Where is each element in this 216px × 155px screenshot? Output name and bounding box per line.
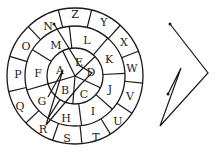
sector-divider [80,126,82,144]
sector-divider [101,119,110,134]
letter-f: F [34,67,42,80]
sector-divider [26,111,39,123]
letter-h: H [61,112,71,125]
letter-m: M [50,39,61,52]
sector-divider [87,10,91,27]
letter-s: S [63,132,71,145]
letter-x: X [120,36,128,49]
sector-divider [79,104,82,126]
letter-y: Y [99,16,108,29]
zigzag-end-dot [167,93,170,96]
letter-n: N [43,20,53,33]
sector-divider [58,10,62,27]
sector-divider [125,81,143,83]
sector-divider [28,27,40,40]
sector-divider [27,84,48,90]
letter-p: P [14,68,22,81]
sector-divider [108,25,120,38]
extracted-zigzag-shape [160,23,208,127]
letter-t: T [92,131,100,144]
letter-i: I [91,105,95,118]
letter-q: Q [15,100,24,113]
letter-b: B [61,84,69,97]
letter-j: J [107,83,112,96]
letter-w: W [126,62,138,75]
sector-divider [10,56,27,61]
sector-divider [117,103,132,113]
sector-divider [69,26,72,48]
sector-divider [96,95,112,110]
letter-o: O [21,40,30,53]
letter-k: K [105,53,114,66]
sector-divider [122,51,139,58]
zigzag-start-dot [169,23,172,26]
cipher-diagram: ZYXWVUTSRQPON LKJIHGFM EDCBA [0,0,216,155]
sector-divider [73,76,75,104]
letter-z: Z [71,8,79,21]
path-start-dot [53,23,56,26]
sector-divider [9,88,27,92]
letter-g: G [38,95,47,108]
letter-l: L [83,34,91,47]
cipher-wheel: ZYXWVUTSRQPON LKJIHGFM EDCBA [7,8,143,145]
zigzag-line [160,24,208,126]
letter-c: C [80,88,88,101]
letter-v: V [125,90,135,103]
sector-divider [103,73,125,74]
middle-ring-letters: LKJIHGFM [34,34,114,125]
sector-divider [53,123,59,140]
letter-u: U [113,115,122,128]
sector-divider [32,50,51,62]
